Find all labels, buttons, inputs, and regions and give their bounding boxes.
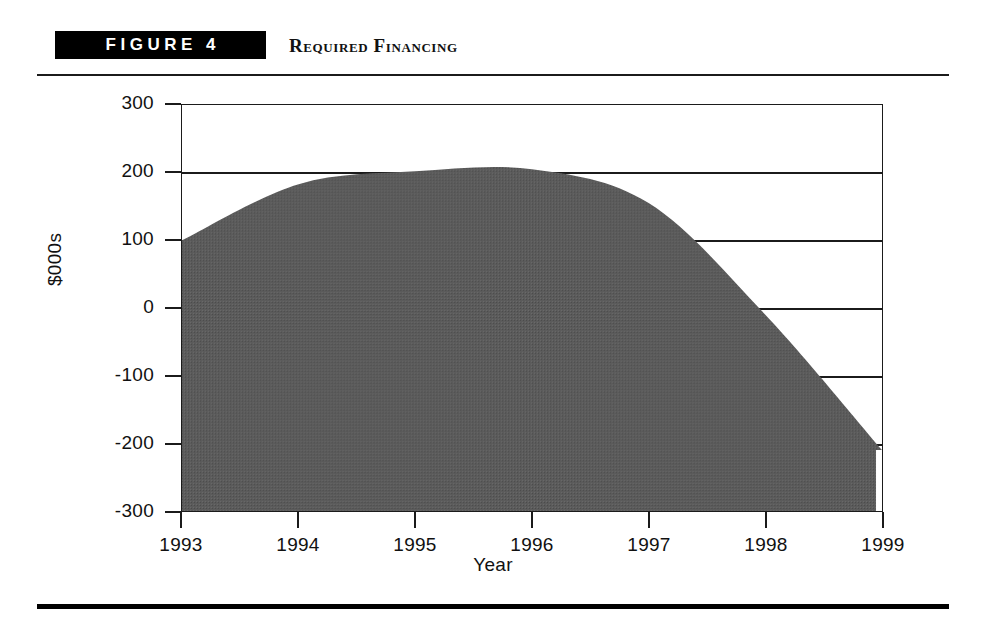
y-tick-200 <box>165 171 181 173</box>
x-tick-1993 <box>180 512 182 528</box>
figure-number-badge: FIGURE 4 <box>55 31 266 59</box>
x-tick-label-1995: 1995 <box>365 534 465 556</box>
y-tick--300 <box>165 511 181 513</box>
footer-rule <box>37 604 949 609</box>
y-tick-300 <box>165 103 181 105</box>
x-tick-1995 <box>414 512 416 528</box>
figure-title: Required Financing <box>289 33 458 59</box>
y-tick-label-0: 0 <box>51 296 154 318</box>
plot-area <box>181 104 883 512</box>
y-tick-label--200: -200 <box>51 432 154 454</box>
y-tick-label-200: 200 <box>51 160 154 182</box>
x-tick-1996 <box>531 512 533 528</box>
figure-header: FIGURE 4 Required Financing <box>0 0 986 80</box>
chart-container: $000s 3002001000-100-200-300 19931994199… <box>0 80 986 600</box>
figure-page: FIGURE 4 Required Financing $000s 300200… <box>0 0 986 638</box>
x-tick-label-1997: 1997 <box>599 534 699 556</box>
x-tick-label-1996: 1996 <box>482 534 582 556</box>
y-tick-label-100: 100 <box>51 228 154 250</box>
y-tick--200 <box>165 443 181 445</box>
header-divider-rule <box>37 74 949 76</box>
x-tick-label-1993: 1993 <box>131 534 231 556</box>
y-tick--100 <box>165 375 181 377</box>
x-tick-label-1998: 1998 <box>716 534 816 556</box>
y-tick-label--300: -300 <box>51 500 154 522</box>
x-tick-1998 <box>765 512 767 528</box>
x-tick-1994 <box>297 512 299 528</box>
y-tick-label--100: -100 <box>51 364 154 386</box>
y-tick-100 <box>165 239 181 241</box>
figure-number-label: FIGURE 4 <box>101 35 220 55</box>
x-axis-title: Year <box>0 554 986 576</box>
area-series-required-financing <box>182 105 882 511</box>
y-tick-0 <box>165 307 181 309</box>
x-tick-1997 <box>648 512 650 528</box>
x-tick-label-1999: 1999 <box>833 534 933 556</box>
x-tick-label-1994: 1994 <box>248 534 348 556</box>
y-tick-label-300: 300 <box>51 92 154 114</box>
x-tick-1999 <box>882 512 884 528</box>
